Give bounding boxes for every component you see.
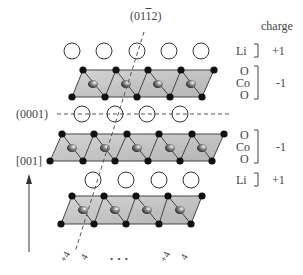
structure-diagram bbox=[0, 0, 303, 275]
charge-coo2-1: -1 bbox=[276, 77, 286, 89]
legend-li-2: Li bbox=[236, 174, 247, 186]
coo2-layer-3 bbox=[57, 192, 205, 227]
charge-li-1: +1 bbox=[272, 45, 285, 57]
li-row-1 bbox=[64, 43, 209, 59]
direction-001-label: [001] bbox=[16, 155, 42, 167]
plane-0112-label: (0112) bbox=[130, 10, 162, 22]
charge-header: charge bbox=[261, 20, 293, 32]
legend-o-1b: O bbox=[240, 89, 249, 101]
plane-0001-label: (0001) bbox=[16, 108, 48, 120]
legend-o-2b: O bbox=[240, 153, 249, 165]
charge-li-2: +1 bbox=[272, 174, 285, 186]
coo2-layer-1 bbox=[68, 66, 217, 100]
charge-coo2-2: -1 bbox=[276, 141, 286, 153]
legend-brackets bbox=[254, 44, 258, 186]
direction-arrow-icon bbox=[26, 174, 32, 252]
ellipsis: • • • bbox=[110, 253, 129, 265]
coo2-layer-2 bbox=[46, 130, 227, 164]
legend-li-1: Li bbox=[236, 45, 247, 57]
li-row-3 bbox=[85, 172, 199, 188]
